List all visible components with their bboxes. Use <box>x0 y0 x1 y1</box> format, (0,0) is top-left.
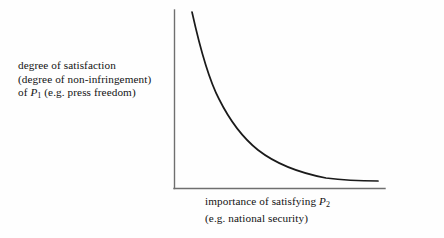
variable-p1: P1 <box>30 86 41 98</box>
y-axis-label-line-2: (degree of non-infringement) <box>18 73 151 87</box>
variable-p2: P2 <box>319 195 330 207</box>
variable-p2-letter: P <box>319 195 326 207</box>
y-axis-label-line-3-prefix: of <box>18 86 30 98</box>
y-axis-label-line-3: of P1 (e.g. press freedom) <box>18 86 151 103</box>
figure-container: degree of satisfaction (degree of non-in… <box>0 0 444 238</box>
y-axis-label: degree of satisfaction (degree of non-in… <box>18 59 151 103</box>
x-axis-label-line-2: (e.g. national security) <box>205 212 330 226</box>
variable-p2-subscript: 2 <box>326 200 330 209</box>
x-axis-label-line-1-prefix: importance of satisfying <box>205 195 319 207</box>
tradeoff-curve <box>192 12 378 181</box>
y-axis-label-line-1: degree of satisfaction <box>18 59 151 73</box>
y-axis-label-line-3-suffix: (e.g. press freedom) <box>41 86 135 98</box>
x-axis-label-line-1: importance of satisfying P2 <box>205 195 330 212</box>
x-axis-label: importance of satisfying P2 (e.g. nation… <box>205 195 330 225</box>
